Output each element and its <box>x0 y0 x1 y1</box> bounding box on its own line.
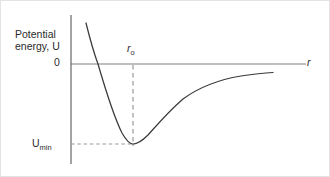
umin-label-base: U <box>32 137 40 149</box>
y-axis-label-line1: Potential <box>15 28 56 40</box>
umin-label: Umin <box>32 137 52 150</box>
potential-energy-curve <box>86 23 273 144</box>
r0-label-base: r <box>127 42 131 54</box>
y-axis-label: Potentialenergy, U <box>15 28 60 53</box>
r0-label: ro <box>127 42 135 55</box>
y-axis-label-line2: energy, U <box>15 40 60 52</box>
umin-label-subscript: min <box>40 143 52 152</box>
potential-energy-diagram: Potentialenergy, U 0 ro Umin r <box>0 0 330 177</box>
zero-tick-label: 0 <box>54 56 60 68</box>
x-axis-label: r <box>307 56 311 68</box>
r0-label-subscript: o <box>131 48 135 57</box>
